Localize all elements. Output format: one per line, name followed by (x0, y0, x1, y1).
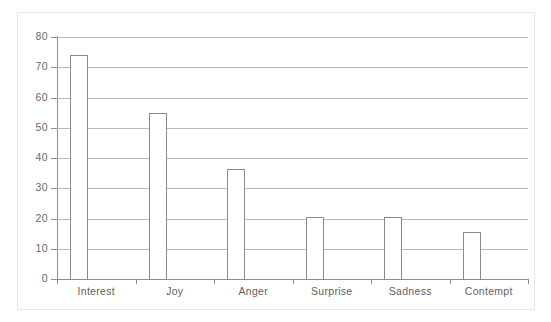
x-tick-mark-3 (293, 279, 294, 284)
y-tick-label-80: 80 (18, 31, 48, 42)
y-tick-label-30: 30 (18, 182, 48, 193)
y-tick-mark-10 (51, 249, 57, 250)
gridline-70 (57, 67, 528, 68)
y-tick-label-70: 70 (18, 61, 48, 72)
x-axis-label-joy: Joy (136, 286, 215, 298)
x-tick-mark-1 (136, 279, 137, 284)
x-tick-mark-2 (214, 279, 215, 284)
gridline-60 (57, 98, 528, 99)
x-axis-label-interest: Interest (57, 286, 136, 298)
y-tick-mark-50 (51, 128, 57, 129)
x-tick-mark-4 (371, 279, 372, 284)
bar-surprise (306, 217, 324, 280)
gridline-40 (57, 158, 528, 159)
gridline-50 (57, 128, 528, 129)
y-tick-label-10: 10 (18, 243, 48, 254)
x-tick-mark-6 (528, 279, 529, 284)
bar-joy (149, 113, 167, 280)
y-axis-tick-labels: 01020304050607080 (8, 0, 48, 322)
y-tick-label-50: 50 (18, 122, 48, 133)
x-axis-label-anger: Anger (214, 286, 293, 298)
plot-area (57, 37, 528, 279)
bar-anger (227, 169, 245, 280)
bar-interest (70, 55, 88, 280)
y-tick-label-60: 60 (18, 92, 48, 103)
y-tick-mark-20 (51, 219, 57, 220)
y-tick-mark-70 (51, 67, 57, 68)
gridline-80 (57, 37, 528, 38)
x-axis-label-contempt: Contempt (450, 286, 529, 298)
bar-contempt (463, 232, 481, 280)
bar-sadness (384, 217, 402, 280)
y-tick-label-20: 20 (18, 213, 48, 224)
bar-chart-figure: 01020304050607080 InterestJoyAngerSurpri… (0, 0, 551, 322)
gridline-20 (57, 219, 528, 220)
y-tick-label-0: 0 (18, 273, 48, 284)
y-tick-mark-60 (51, 98, 57, 99)
x-tick-mark-5 (450, 279, 451, 284)
x-tick-mark-0 (57, 279, 58, 284)
y-tick-label-40: 40 (18, 152, 48, 163)
x-axis-label-surprise: Surprise (293, 286, 372, 298)
y-tick-mark-40 (51, 158, 57, 159)
gridline-10 (57, 249, 528, 250)
x-axis-label-sadness: Sadness (371, 286, 450, 298)
y-tick-mark-30 (51, 188, 57, 189)
y-tick-mark-80 (51, 37, 57, 38)
gridline-30 (57, 188, 528, 189)
